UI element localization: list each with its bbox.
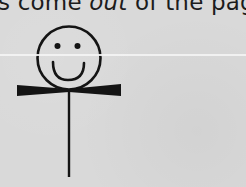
left-eye bbox=[55, 43, 61, 49]
scan-artifact-line bbox=[0, 54, 246, 56]
smile-mouth bbox=[53, 62, 84, 80]
page-background: s come out of the page. bbox=[0, 0, 246, 187]
right-eye bbox=[75, 43, 81, 49]
stick-figure-icon bbox=[0, 0, 246, 187]
